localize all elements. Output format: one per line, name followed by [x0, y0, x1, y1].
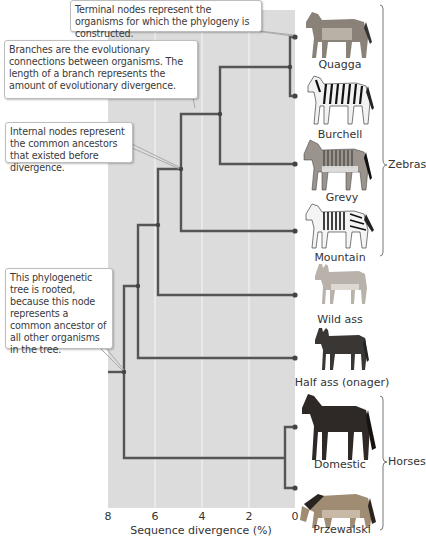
root-node [122, 370, 126, 374]
taxon-label-burchell: Burchell [318, 128, 363, 141]
axis-tick-6: 6 [152, 510, 159, 523]
domestic-horse-illustration [302, 394, 376, 460]
onager-illustration [315, 328, 369, 370]
taxon-label-wild-ass: Wild ass [317, 313, 362, 326]
internal-node [288, 65, 292, 69]
animal-illustrations [300, 12, 376, 528]
taxon-label-mountain: Mountain [314, 251, 365, 264]
internal-node [156, 223, 160, 227]
grevy-illustration [304, 140, 372, 190]
taxon-label-grevy: Grevy [326, 191, 359, 204]
group-label-zebras: Zebras [388, 158, 426, 171]
callout-terminal-nodes: Terminal nodes represent the organisms f… [70, 0, 262, 32]
internal-node [136, 284, 140, 288]
terminal-node-quagga [292, 34, 297, 39]
burchell-illustration [308, 76, 374, 124]
callout-root: This phylogenetic tree is rooted, becaus… [5, 268, 113, 349]
terminal-node-half-ass [292, 355, 297, 360]
internal-node [218, 112, 222, 116]
zebras-bracket [380, 5, 387, 256]
quagga-illustration [306, 12, 372, 58]
taxon-label-domestic: Domestic [314, 458, 366, 471]
wild-ass-illustration [315, 264, 367, 304]
terminal-node-grevy [292, 161, 297, 166]
group-brackets [380, 5, 387, 530]
taxon-label-half-ass: Half ass (onager) [295, 376, 389, 389]
axis-tick-0: 0 [292, 510, 299, 523]
terminal-node-domestic [292, 424, 297, 429]
terminal-node-przewalski [292, 485, 297, 490]
axis-tick-8: 8 [105, 510, 112, 523]
callout-internal-nodes: Internal nodes represent the common ance… [5, 122, 133, 163]
internal-node [179, 167, 183, 171]
taxon-label-quagga: Quagga [318, 58, 361, 71]
horses-bracket [380, 396, 387, 530]
terminal-node-burchell [292, 93, 297, 98]
group-label-horses: Horses [388, 455, 426, 468]
taxon-label-przewalski: Przewalski [313, 523, 370, 536]
axis-tick-4: 4 [199, 510, 206, 523]
callout-branches: Branches are the evolutionary connection… [4, 40, 198, 99]
terminal-node-mountain [292, 228, 297, 233]
phylogenetic-tree-figure: Terminal nodes represent the organisms f… [0, 0, 426, 541]
axis-tick-2: 2 [246, 510, 253, 523]
x-axis-label: Sequence divergence (%) [130, 524, 271, 537]
mountain-zebra-illustration [306, 204, 374, 248]
terminal-node-wild-ass [292, 292, 297, 297]
